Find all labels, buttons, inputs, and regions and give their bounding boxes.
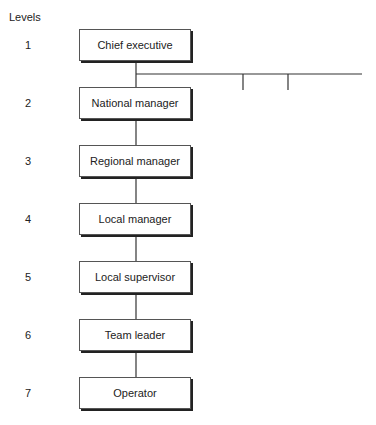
level-number: 2 [22,97,34,109]
node-team-leader: Team leader [79,319,191,351]
level-number: 4 [22,213,34,225]
level-number: 6 [22,329,34,341]
node-chief-executive: Chief executive [79,29,191,61]
node-regional-manager: Regional manager [79,145,191,177]
level-number: 3 [22,155,34,167]
node-national-manager: National manager [79,87,191,119]
level-number: 5 [22,271,34,283]
level-number: 1 [22,39,34,51]
node-local-supervisor: Local supervisor [79,261,191,293]
levels-heading: Levels [9,11,41,23]
node-local-manager: Local manager [79,203,191,235]
node-operator: Operator [79,377,191,409]
level-number: 7 [22,387,34,399]
